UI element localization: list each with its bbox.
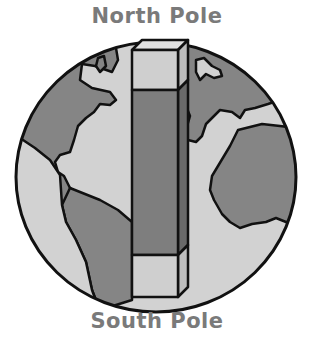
globe-diagram	[0, 0, 314, 342]
south-pole-label: South Pole	[0, 309, 314, 333]
column-right-side-bottom	[178, 245, 188, 297]
column-right-side-middle	[178, 80, 188, 255]
column-top-cap	[132, 50, 178, 90]
axis-column	[132, 40, 188, 297]
column-bottom-cap	[132, 255, 178, 297]
column-middle	[132, 90, 178, 255]
